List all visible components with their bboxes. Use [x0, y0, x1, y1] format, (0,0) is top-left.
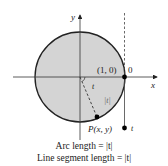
point-P-label: P(x, y)	[87, 124, 112, 134]
point-t	[122, 126, 127, 131]
caption-arc-length: Arc length = |t|	[0, 141, 168, 151]
point-t-label: t	[131, 124, 134, 133]
tangent-zero-label: 0	[128, 65, 133, 75]
point-1-0-label: (1, 0)	[97, 65, 117, 75]
point-1-0	[122, 75, 127, 80]
y-axis-label: y	[70, 12, 75, 22]
point-P	[95, 115, 100, 120]
arc-length-label: |t|	[104, 96, 111, 105]
caption-segment-length: Line segment length = |t|	[0, 153, 168, 163]
unit-circle-diagram: y x (1, 0) 0 t |t| P(x, y) t	[0, 0, 168, 140]
x-axis-label: x	[150, 80, 155, 90]
